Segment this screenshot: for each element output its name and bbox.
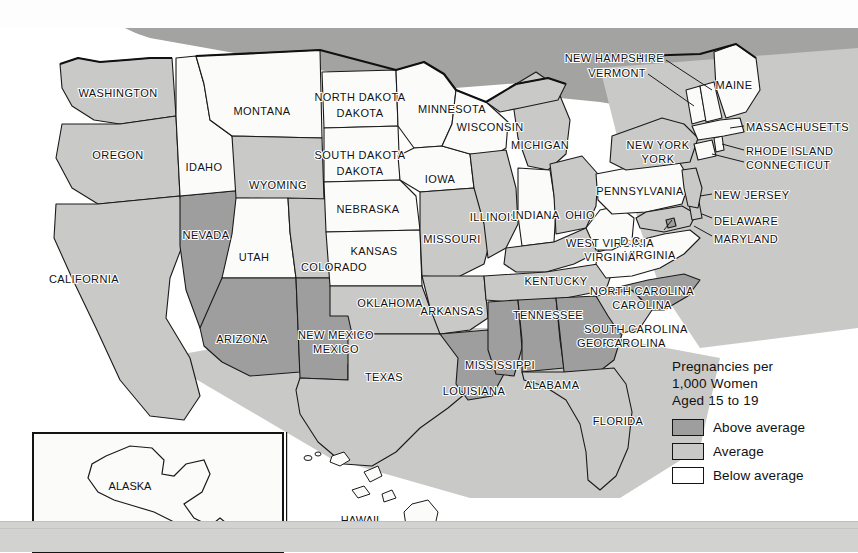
- legend-title-line2: 1,000 Women: [672, 375, 850, 392]
- legend-title-line1: Pregnancies per: [672, 358, 850, 375]
- label-NC-2: CAROLINA: [612, 299, 672, 311]
- label-NY-1: NEW YORK: [627, 139, 690, 151]
- label-NY-2: YORK: [642, 153, 675, 165]
- label-MS: MISSISSIPPI: [465, 359, 535, 371]
- label-KY: KENTUCKY: [524, 275, 587, 287]
- legend-title-line3: Aged 15 to 19: [672, 392, 850, 409]
- label-MT: MONTANA: [234, 105, 291, 117]
- legend-swatch-below: [672, 467, 704, 484]
- state-CT[interactable]: [694, 140, 716, 160]
- label-IA: IOWA: [425, 173, 456, 185]
- state-IA[interactable]: [398, 146, 474, 192]
- legend-swatch-average: [672, 443, 704, 460]
- label-ND-1: NORTH DAKOTA: [314, 91, 405, 103]
- label-RI: RHODE ISLAND: [746, 145, 833, 157]
- label-MN: MINNESOTA: [418, 103, 486, 115]
- label-AR: ARKANSAS: [420, 305, 483, 317]
- label-KS: KANSAS: [350, 245, 397, 257]
- label-FL: FLORIDA: [593, 415, 644, 427]
- legend-item-average[interactable]: Average: [672, 441, 850, 462]
- legend-label-above: Above average: [713, 420, 805, 435]
- label-SD-1: SOUTH DAKOTA: [315, 149, 406, 161]
- legend-item-above[interactable]: Above average: [672, 417, 850, 438]
- state-IN[interactable]: [518, 168, 556, 246]
- map-legend: Pregnancies per 1,000 Women Aged 15 to 1…: [672, 358, 850, 489]
- alaska-inset-label: ALASKA: [109, 480, 152, 492]
- label-MO: MISSOURI: [423, 233, 481, 245]
- label-CT: CONNECTICUT: [746, 159, 830, 171]
- label-SC-2: CAROLINA: [606, 337, 666, 349]
- label-MA: MASSACHUSETTS: [746, 121, 849, 133]
- label-LA: LOUISIANA: [443, 385, 506, 397]
- label-AZ: ARIZONA: [216, 333, 268, 345]
- label-TX: TEXAS: [365, 371, 403, 383]
- label-WA: WASHINGTON: [78, 87, 157, 99]
- label-CA: CALIFORNIA: [49, 273, 119, 285]
- label-DE: DELAWARE: [714, 215, 778, 227]
- legend-title: Pregnancies per 1,000 Women Aged 15 to 1…: [672, 358, 850, 409]
- label-NE: NEBRASKA: [336, 203, 399, 215]
- label-NH: NEW HAMPSHIRE: [565, 52, 664, 64]
- label-ME: MAINE: [716, 79, 753, 91]
- label-SC-1: SOUTH CAROLINA: [584, 323, 688, 335]
- map-canvas: WASHINGTON OREGON CALIFORNIA NEVADA IDAH…: [0, 28, 858, 521]
- label-UT: UTAH: [239, 251, 270, 263]
- label-MD: MARYLAND: [714, 233, 778, 245]
- label-OH: OHIO: [565, 209, 595, 221]
- label-IL: ILLINOIS: [470, 211, 518, 223]
- label-VT: VERMONT: [588, 67, 646, 79]
- label-NM-2: MEXICO: [313, 343, 359, 355]
- label-WY: WYOMING: [249, 179, 307, 191]
- label-NJ: NEW JERSEY: [714, 189, 790, 201]
- label-DC: D.C.: [620, 235, 644, 247]
- scan-band-bottom: [0, 521, 858, 552]
- legend-label-average: Average: [713, 444, 764, 459]
- label-NC-1: NORTH CAROLINA: [590, 285, 694, 297]
- label-OR: OREGON: [92, 149, 143, 161]
- label-ID: IDAHO: [186, 161, 223, 173]
- scan-band-top: [0, 0, 858, 28]
- label-OK: OKLAHOMA: [357, 297, 423, 309]
- legend-items: Above average Average Below average: [672, 417, 850, 486]
- label-SD-2: DAKOTA: [337, 165, 384, 177]
- state-DC[interactable]: [666, 218, 676, 228]
- label-AL: ALABAMA: [525, 379, 580, 391]
- label-IN: INDIANA: [512, 209, 560, 221]
- state-KS[interactable]: [326, 230, 422, 286]
- label-WV-2: VIRGINIA: [584, 251, 636, 263]
- label-ND-2: DAKOTA: [337, 107, 384, 119]
- label-NM-1: NEW MEXICO: [298, 329, 374, 341]
- label-CO: COLORADO: [301, 261, 367, 273]
- label-PA: PENNSYLVANIA: [596, 185, 684, 197]
- legend-item-below[interactable]: Below average: [672, 465, 850, 486]
- label-WI: WISCONSIN: [456, 121, 523, 133]
- label-NV: NEVADA: [183, 229, 230, 241]
- state-CA[interactable]: [54, 196, 200, 420]
- label-MI: MICHIGAN: [511, 139, 569, 151]
- label-TN: TENNESSEE: [513, 309, 583, 321]
- legend-swatch-above: [672, 419, 704, 436]
- legend-label-below: Below average: [713, 468, 804, 483]
